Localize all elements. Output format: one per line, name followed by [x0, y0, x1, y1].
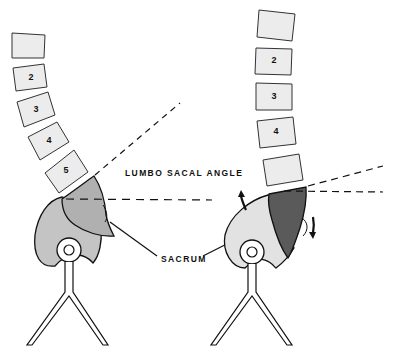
- vertebra-1: [12, 33, 45, 58]
- lumbosacral-diagram: 2 3 4 5 LUMBO SACAL ANGLE SACRUM 2 3: [0, 0, 395, 354]
- vertebra-label-2: 2: [271, 55, 276, 65]
- vertebra-5: [263, 154, 303, 186]
- rotation-arrow-down-icon: [309, 217, 316, 239]
- right-hip-ring-inner: [247, 247, 257, 257]
- left-stick-body: [27, 262, 108, 345]
- left-figure: 2 3 4 5: [12, 33, 212, 345]
- vertebra-label-3: 3: [33, 104, 38, 114]
- right-lumbar-axis-dashed: [308, 166, 383, 186]
- vertebra-label-4: 4: [46, 135, 51, 145]
- sacrum-pointer-left: [110, 222, 157, 256]
- left-hip-ring-inner: [64, 245, 74, 255]
- sacrum-label: SACRUM: [161, 254, 207, 264]
- rotation-arrow-up-icon: [238, 190, 246, 210]
- left-lumbar-axis-dashed: [95, 103, 180, 175]
- vertebra-label-5: 5: [63, 165, 68, 175]
- lumbo-sacal-angle-label: LUMBO SACAL ANGLE: [125, 168, 243, 178]
- vertebra-1: [257, 10, 295, 41]
- right-spine: 2 3 4: [255, 10, 303, 186]
- vertebra-label-2: 2: [28, 72, 33, 82]
- right-stick-body: [211, 264, 292, 345]
- vertebra-label-3: 3: [271, 91, 276, 101]
- left-spine: 2 3 4 5: [12, 33, 88, 193]
- vertebra-label-4: 4: [273, 126, 278, 136]
